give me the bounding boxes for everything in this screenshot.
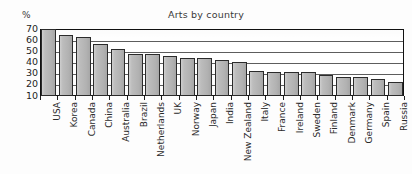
- y-tick-label: 10: [18, 91, 38, 101]
- x-axis-label: Sweden: [313, 102, 322, 138]
- x-tick: [92, 96, 93, 100]
- bar[interactable]: [353, 77, 368, 96]
- y-axis: 70605040302010: [18, 24, 38, 98]
- bar-slot: [317, 29, 334, 96]
- bar[interactable]: [180, 58, 195, 96]
- x-tick: [161, 96, 162, 100]
- bar[interactable]: [284, 72, 299, 95]
- bar-slot: [75, 29, 92, 96]
- bar[interactable]: [267, 72, 282, 95]
- bar-slot: [57, 29, 74, 96]
- x-tick: [40, 96, 41, 100]
- x-tick: [75, 96, 76, 100]
- bar-slot: [369, 29, 386, 96]
- arts-by-country-bar-chart: Arts by country % 70605040302010 USAKore…: [0, 0, 412, 174]
- bar-slot: [265, 29, 282, 96]
- x-tick: [196, 96, 197, 100]
- y-axis-unit-label: %: [22, 10, 31, 20]
- x-axis-label: China: [105, 102, 114, 128]
- y-tick-label: 70: [18, 24, 38, 34]
- y-tick-label: 30: [18, 68, 38, 78]
- x-axis-label: Brazil: [140, 102, 149, 127]
- x-axis-label: Finland: [330, 102, 339, 134]
- bar-slot: [335, 29, 352, 96]
- y-tick-label: 50: [18, 46, 38, 56]
- bar[interactable]: [319, 75, 334, 95]
- bar[interactable]: [197, 58, 212, 96]
- x-axis-label: Russia: [400, 102, 409, 131]
- x-axis-label: Germany: [365, 102, 374, 143]
- x-tick: [300, 96, 301, 100]
- x-axis-label: India: [226, 102, 235, 124]
- x-tick: [127, 96, 128, 100]
- x-tick: [144, 96, 145, 100]
- x-axis-label: France: [278, 102, 287, 132]
- x-tick: [317, 96, 318, 100]
- x-tick: [335, 96, 336, 100]
- x-tick: [231, 96, 232, 100]
- bar[interactable]: [128, 54, 143, 95]
- bar-slot: [127, 29, 144, 96]
- bar-slot: [179, 29, 196, 96]
- bar-slot: [300, 29, 317, 96]
- bar-slot: [144, 29, 161, 96]
- x-axis: USAKoreaCanadaChinaAustraliaBrazilNether…: [40, 96, 404, 174]
- bar-slot: [109, 29, 126, 96]
- bar-slot: [248, 29, 265, 96]
- bar[interactable]: [249, 71, 264, 96]
- x-tick: [109, 96, 110, 100]
- bar-slot: [92, 29, 109, 96]
- bar[interactable]: [93, 44, 108, 95]
- bar[interactable]: [76, 37, 91, 95]
- bar-slot: [196, 29, 213, 96]
- x-axis-label: Italy: [261, 102, 270, 122]
- bar[interactable]: [41, 29, 56, 96]
- x-tick: [57, 96, 58, 100]
- x-axis-label: Japan: [209, 102, 218, 127]
- bar[interactable]: [215, 60, 230, 96]
- x-tick: [265, 96, 266, 100]
- x-axis-label: Denmark: [348, 102, 357, 143]
- x-axis-label: Netherlands: [157, 102, 166, 157]
- x-tick: [369, 96, 370, 100]
- bar[interactable]: [232, 62, 247, 96]
- x-tick: [404, 96, 405, 100]
- x-tick: [213, 96, 214, 100]
- x-tick: [248, 96, 249, 100]
- x-axis-label: USA: [53, 102, 62, 121]
- bar[interactable]: [336, 77, 351, 96]
- bar[interactable]: [301, 72, 316, 95]
- bar[interactable]: [163, 56, 178, 95]
- x-tick: [387, 96, 388, 100]
- x-axis-label: Spain: [382, 102, 391, 127]
- x-axis-label: Norway: [192, 102, 201, 136]
- y-tick-label: 20: [18, 80, 38, 90]
- x-axis-label: Korea: [70, 102, 79, 128]
- x-axis-label: UK: [174, 102, 183, 115]
- bar[interactable]: [111, 49, 126, 96]
- bar-slot: [352, 29, 369, 96]
- chart-title: Arts by country: [0, 9, 412, 20]
- bar[interactable]: [59, 35, 74, 95]
- x-tick: [179, 96, 180, 100]
- y-tick-label: 60: [18, 35, 38, 45]
- bar-slot: [161, 29, 178, 96]
- x-axis-label: Canada: [88, 102, 97, 136]
- x-tick: [352, 96, 353, 100]
- bar-slot: [231, 29, 248, 96]
- x-axis-label: Ireland: [296, 102, 305, 133]
- bar[interactable]: [145, 54, 160, 95]
- x-axis-label: New Zealand: [244, 102, 253, 161]
- x-tick: [283, 96, 284, 100]
- y-tick-label: 40: [18, 57, 38, 67]
- bars-layer: [40, 29, 404, 96]
- bar-slot: [40, 29, 57, 96]
- bar[interactable]: [371, 79, 386, 96]
- bar-slot: [283, 29, 300, 96]
- bar-slot: [387, 29, 404, 96]
- bar-slot: [213, 29, 230, 96]
- x-axis-label: Australia: [122, 102, 131, 142]
- bar[interactable]: [388, 82, 403, 95]
